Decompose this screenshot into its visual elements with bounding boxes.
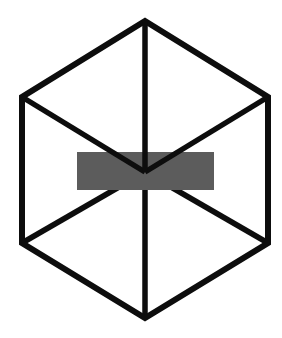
figure-canvas: Necker cube hexagon wireframe with gray … [0,0,282,338]
cube-figure-svg [0,0,282,338]
